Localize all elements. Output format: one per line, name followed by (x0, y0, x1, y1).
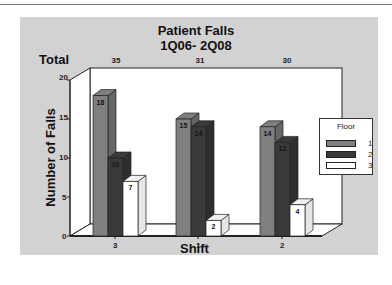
legend-item: 1 (326, 139, 372, 148)
svg-text:14: 14 (264, 130, 272, 137)
legend-swatch (326, 151, 356, 158)
svg-text:14: 14 (195, 130, 203, 137)
legend-label: 2 (368, 150, 372, 159)
legend-item: 3 (326, 161, 372, 170)
svg-text:4: 4 (296, 208, 300, 215)
legend-label: 3 (368, 161, 372, 170)
legend-item: 2 (326, 150, 372, 159)
svg-text:12: 12 (279, 145, 287, 152)
legend-swatch (326, 162, 356, 169)
svg-text:15: 15 (180, 122, 188, 129)
svg-text:2: 2 (212, 223, 216, 230)
legend: Floor 1 2 3 (319, 118, 373, 175)
legend-label: 1 (368, 139, 372, 148)
legend-title: Floor (320, 122, 372, 131)
svg-text:18: 18 (97, 99, 105, 106)
svg-text:7: 7 (129, 184, 133, 191)
svg-text:10: 10 (112, 161, 120, 168)
legend-swatch (326, 140, 356, 147)
